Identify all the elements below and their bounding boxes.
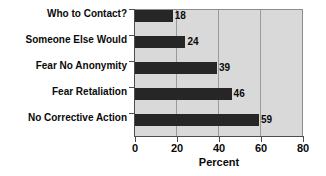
bar-value-fear-no-anonymity: 39 [219,62,230,74]
y-axis-tick-0 [129,9,134,10]
bar-value-no-corrective-action: 59 [261,114,272,126]
x-axis-label-60: 60 [255,142,267,155]
y-axis-tick-1 [129,35,134,36]
category-label-fear-no-anonymity: Fear No Anonymity [36,60,127,72]
bar-someone-else-would [135,36,185,48]
bar-value-fear-retaliation: 46 [234,88,245,100]
y-axis-tick-3 [129,87,134,88]
bar-value-who-to-contact: 18 [175,10,186,22]
category-label-someone-else-would: Someone Else Would [26,34,128,46]
x-axis-label-80: 80 [297,142,309,155]
category-label-no-corrective-action: No Corrective Action [28,112,127,124]
x-axis-label-40: 40 [213,142,225,155]
bar-fear-retaliation [135,88,232,100]
bar-who-to-contact [135,10,173,22]
y-axis-tick-2 [129,61,134,62]
category-axis-labels: Who to Contact? Someone Else Would Fear … [0,8,131,136]
category-label-who-to-contact: Who to Contact? [47,8,127,20]
x-axis-label-0: 0 [132,142,138,155]
plot-area: 18 24 39 46 59 [135,9,303,136]
category-label-fear-retaliation: Fear Retaliation [52,86,127,98]
bar-chart: Who to Contact? Someone Else Would Fear … [0,0,326,176]
y-axis-tick-4 [129,113,134,114]
x-axis-label-20: 20 [171,142,183,155]
x-axis-title: Percent [135,156,303,168]
y-axis-line [134,9,135,137]
bar-fear-no-anonymity [135,62,217,74]
bar-no-corrective-action [135,114,259,126]
bar-value-someone-else-would: 24 [187,36,198,48]
